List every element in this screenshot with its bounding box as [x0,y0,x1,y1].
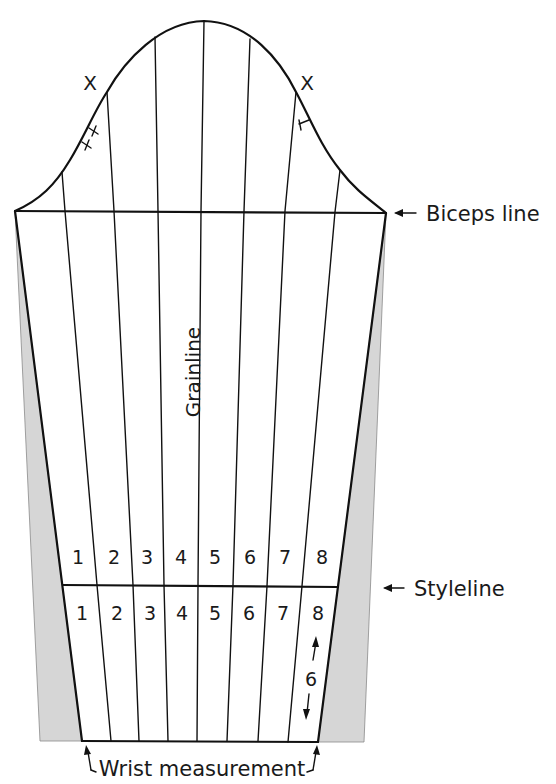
lower-section-5: 5 [209,602,221,624]
notch-mark-left: X [83,71,97,95]
upper-section-numbers: 1 2 3 4 5 6 7 8 [72,546,328,568]
left-bracket-arrow-icon [88,752,91,770]
sleeve-cap-curve [15,21,386,213]
lower-section-3: 3 [144,602,156,624]
arrow-up-head-icon [312,636,319,647]
biceps-line-label: Biceps line [426,202,540,226]
slash-line-5 [227,39,250,741]
lower-section-4: 4 [176,602,188,624]
upper-section-3: 3 [141,546,153,568]
lower-section-numbers: 1 2 3 4 5 6 7 8 [76,602,324,624]
wrist-measurement-label: Wrist measurement [99,757,306,781]
upper-section-2: 2 [108,546,120,568]
notch-mark-right: X [300,71,314,95]
arrow-down-head-icon [303,709,310,720]
lower-section-2: 2 [111,602,123,624]
biceps-line-callout: Biceps line [394,202,540,226]
lower-section-8: 8 [312,602,324,624]
sleeve-pattern-diagram: X X Grainline 1 2 3 4 5 6 7 8 1 2 3 4 5 … [0,0,556,784]
upper-section-4: 4 [175,546,187,568]
grainline-label: Grainline [181,327,205,417]
upper-section-7: 7 [279,546,291,568]
front-single-notch-icon [299,120,309,130]
upper-section-8: 8 [316,546,328,568]
lower-section-1: 1 [76,602,88,624]
lower-section-7: 7 [277,602,289,624]
spread-amount-label: 6 [305,668,317,690]
styleline [63,585,338,587]
upper-section-5: 5 [209,546,221,568]
slash-line-6 [258,92,296,741]
lower-section-6: 6 [243,602,255,624]
wrist-measurement-callout: Wrist measurement [84,745,320,781]
slash-line-3 [155,37,168,741]
upper-section-1: 1 [72,546,84,568]
wrist-line [82,741,318,742]
right-bracket-arrow-icon [313,752,316,770]
styleline-callout: Styleline [383,577,505,601]
styleline-label: Styleline [414,577,505,601]
slash-line-2 [107,92,139,741]
upper-section-6: 6 [244,546,256,568]
spread-amount-indicator: 6 [303,636,319,720]
back-double-notch-icon [82,126,98,150]
